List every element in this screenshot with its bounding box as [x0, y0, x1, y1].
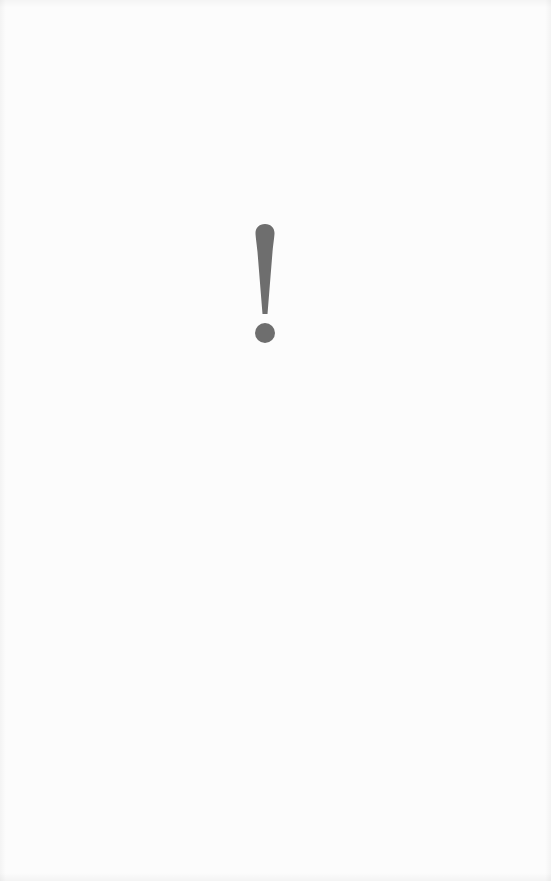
blank-page-canvas [0, 0, 551, 881]
exclamation-icon [251, 222, 279, 346]
